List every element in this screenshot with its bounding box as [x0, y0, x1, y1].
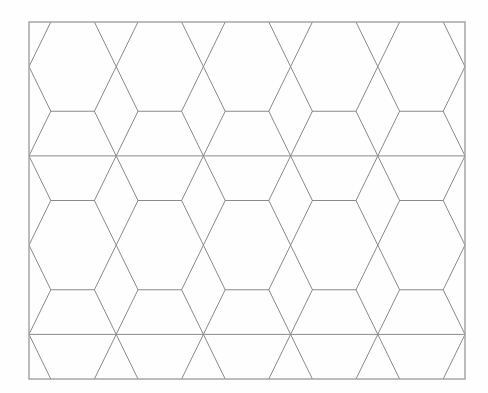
page: [0, 0, 488, 393]
tessellation-figure: [0, 0, 488, 393]
